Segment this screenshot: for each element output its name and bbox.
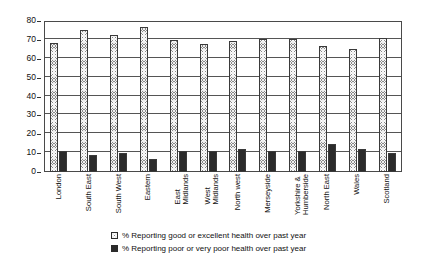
x-axis-label: South East <box>85 174 93 211</box>
bar-poor-health <box>179 151 187 172</box>
y-tick-mark <box>37 59 41 60</box>
bar-poor-health <box>298 151 306 172</box>
bar-good-health <box>170 40 178 172</box>
y-tick-mark <box>37 172 41 173</box>
bar-good-health <box>110 35 118 172</box>
x-axis-labels: LondonSouth EastSouth WestEasternEast Mi… <box>44 174 402 232</box>
y-tick-mark <box>37 97 41 98</box>
bar-good-health <box>379 38 387 172</box>
bar-group <box>104 21 134 172</box>
bar-group <box>223 21 253 172</box>
bar-poor-health <box>209 151 217 172</box>
legend-label-good: % Reporting good or excellent health ove… <box>122 231 306 240</box>
bars-layer <box>44 21 402 172</box>
bar-poor-health <box>358 149 366 172</box>
y-tick-label: 60 <box>27 54 36 63</box>
y-tick-mark <box>37 134 41 135</box>
bar-group <box>44 21 74 172</box>
bar-good-health <box>200 44 208 172</box>
y-tick-label: 50 <box>27 73 36 82</box>
bar-group <box>283 21 313 172</box>
bar-good-health <box>80 30 88 172</box>
bar-chart: 01020304050607080 LondonSouth EastSouth … <box>0 0 434 269</box>
bar-poor-health <box>89 155 97 172</box>
y-tick-label: 30 <box>27 110 36 119</box>
y-tick-mark <box>37 153 41 154</box>
bar-good-health <box>259 39 267 172</box>
x-axis-label: North west <box>234 174 242 210</box>
y-tick-mark <box>37 115 41 116</box>
bar-group <box>372 21 402 172</box>
x-axis-label: London <box>55 174 63 199</box>
crosshatch-square-icon <box>111 232 118 239</box>
bar-group <box>342 21 372 172</box>
bar-group <box>134 21 164 172</box>
bar-poor-health <box>149 159 157 172</box>
y-tick-mark <box>37 21 41 22</box>
bar-group <box>163 21 193 172</box>
bar-group <box>253 21 283 172</box>
y-tick-mark <box>37 78 41 79</box>
y-tick-label: 80 <box>27 16 36 25</box>
x-axis-label: West Midlands <box>204 174 221 204</box>
bar-poor-health <box>388 153 396 172</box>
x-axis-label: North East <box>323 174 331 210</box>
bar-group <box>74 21 104 172</box>
bar-good-health <box>140 27 148 172</box>
x-axis-label: Eastern <box>144 174 152 200</box>
bar-good-health <box>229 41 237 172</box>
legend-label-poor: % Reporting poor or very poor health ove… <box>122 244 306 253</box>
solid-square-icon <box>111 245 118 252</box>
bar-poor-health <box>268 151 276 172</box>
x-axis-label: South West <box>115 174 123 213</box>
legend-item-poor: % Reporting poor or very poor health ove… <box>111 243 351 254</box>
x-axis-label: Wales <box>353 174 361 195</box>
x-axis-label: Scotland <box>383 174 391 204</box>
bar-group <box>313 21 343 172</box>
bar-poor-health <box>238 149 246 172</box>
bar-good-health <box>349 49 357 172</box>
bar-good-health <box>319 46 327 172</box>
chart-legend: % Reporting good or excellent health ove… <box>111 230 351 256</box>
y-tick-label: 70 <box>27 35 36 44</box>
bar-good-health <box>50 43 58 172</box>
bar-poor-health <box>119 153 127 172</box>
bar-good-health <box>289 39 297 172</box>
legend-item-good: % Reporting good or excellent health ove… <box>111 230 351 241</box>
y-tick-label: 10 <box>27 148 36 157</box>
y-tick-label: 40 <box>27 92 36 101</box>
x-axis-label: Yorkshire & Humberside <box>294 174 311 215</box>
y-tick-mark <box>37 40 41 41</box>
x-axis-label: Merseyside <box>264 174 272 213</box>
y-tick-label: 0 <box>31 167 36 176</box>
bar-group <box>193 21 223 172</box>
x-axis-label: East Midlands <box>174 174 191 204</box>
y-axis: 01020304050607080 <box>0 0 44 200</box>
bar-poor-health <box>59 151 67 172</box>
y-tick-label: 20 <box>27 129 36 138</box>
bar-poor-health <box>328 144 336 172</box>
